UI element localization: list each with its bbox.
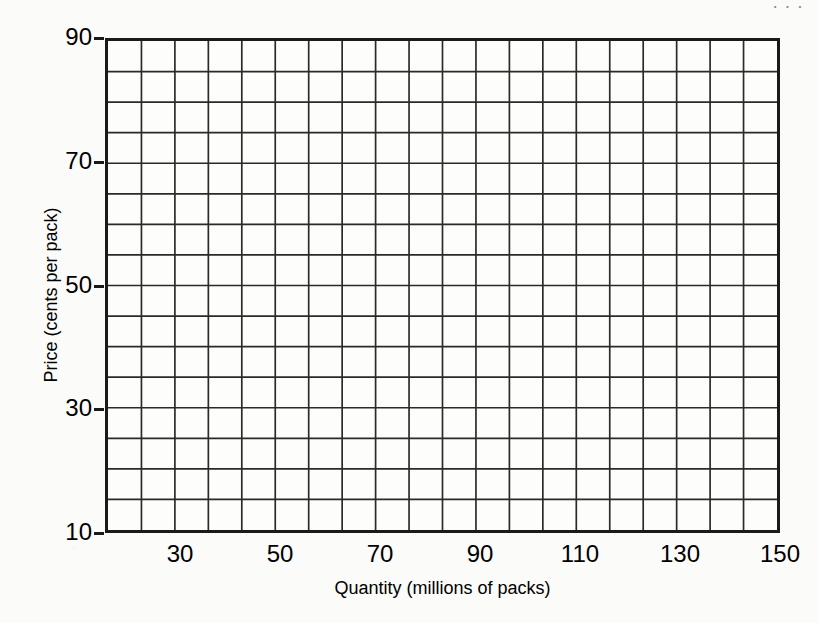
y-axis-tick-mark	[94, 408, 104, 411]
x-axis-tick-label: 30	[145, 541, 215, 567]
y-axis-tick-mark	[94, 37, 104, 40]
y-axis-tick-mark	[94, 285, 104, 288]
x-axis-tick-label: 90	[445, 541, 515, 567]
y-axis-tick-label: 90	[0, 26, 92, 48]
y-axis-tick-mark	[94, 532, 104, 535]
x-axis-tick-label: 150	[745, 541, 815, 567]
x-axis-tick-label: 70	[345, 541, 415, 567]
x-axis-tick-label: 130	[645, 541, 715, 567]
y-axis-tick-label: 10	[0, 521, 92, 543]
cropped-header-fragment: ···	[689, 0, 809, 12]
y-axis-title: Price (cents per pack)	[41, 145, 61, 445]
grid-lines	[108, 41, 777, 530]
plot-area	[105, 38, 780, 533]
x-axis-tick-label: 50	[245, 541, 315, 567]
x-axis-tick-label: 110	[545, 541, 615, 567]
x-axis-title: Quantity (millions of packs)	[105, 578, 780, 598]
chart-page: ··· 9070503010 30507090110130150 Price (…	[0, 0, 819, 623]
y-axis-tick-mark	[94, 161, 104, 164]
